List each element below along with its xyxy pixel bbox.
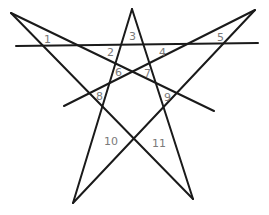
angle-label-10: 10 xyxy=(104,135,118,148)
line-4 xyxy=(132,9,193,199)
star-angle-diagram: 1 2 3 4 5 6 7 8 9 10 11 xyxy=(0,0,269,215)
angle-label-5: 5 xyxy=(217,31,224,44)
angle-label-1: 1 xyxy=(44,33,51,46)
angle-label-2: 2 xyxy=(107,46,114,59)
line-6 xyxy=(73,10,255,203)
angle-label-9: 9 xyxy=(164,91,171,104)
angle-label-11: 11 xyxy=(152,137,166,150)
angle-label-6: 6 xyxy=(115,66,122,79)
angle-label-3: 3 xyxy=(129,30,136,43)
line-1 xyxy=(11,13,214,111)
angle-label-4: 4 xyxy=(159,46,166,59)
angle-label-8: 8 xyxy=(96,90,103,103)
angle-label-7: 7 xyxy=(144,67,151,80)
labels-group: 1 2 3 4 5 6 7 8 9 10 11 xyxy=(44,30,224,150)
